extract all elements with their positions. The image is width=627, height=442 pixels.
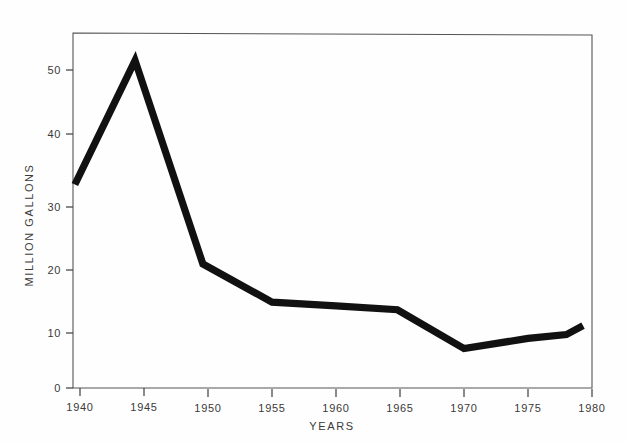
y-axis-title: MILLION GALLONS bbox=[23, 163, 35, 286]
chart-figure: 0 10 20 30 40 50 MILLION GALLONS 1940 19… bbox=[0, 0, 627, 442]
x-tick-label-1955: 1955 bbox=[258, 402, 285, 414]
x-tick-label-1950: 1950 bbox=[194, 402, 221, 414]
x-tick-label-1940: 1940 bbox=[66, 401, 93, 413]
y-tick-label-10: 10 bbox=[48, 327, 61, 339]
y-tick-label-20: 20 bbox=[48, 264, 61, 276]
y-tick-label-50: 50 bbox=[48, 64, 61, 76]
y-axis-ticks bbox=[66, 70, 73, 388]
x-tick-label-1980: 1980 bbox=[578, 402, 605, 414]
plot-frame bbox=[73, 33, 592, 388]
y-axis-tick-labels: 0 10 20 30 40 50 bbox=[48, 64, 61, 394]
y-tick-label-0: 0 bbox=[54, 382, 61, 394]
y-tick-label-30: 30 bbox=[48, 201, 61, 213]
line-chart: 0 10 20 30 40 50 MILLION GALLONS 1940 19… bbox=[0, 0, 627, 442]
x-tick-label-1965: 1965 bbox=[386, 402, 413, 414]
x-tick-label-1970: 1970 bbox=[450, 402, 477, 414]
x-tick-label-1975: 1975 bbox=[514, 402, 541, 414]
x-axis-title: YEARS bbox=[309, 420, 354, 432]
x-axis-tick-labels: 1940 1945 1950 1955 1960 1965 1970 1975 … bbox=[66, 401, 605, 414]
data-series-line bbox=[75, 60, 583, 348]
x-tick-label-1960: 1960 bbox=[322, 402, 349, 414]
x-axis-ticks bbox=[80, 388, 592, 397]
x-tick-label-1945: 1945 bbox=[130, 401, 157, 413]
y-tick-label-40: 40 bbox=[48, 128, 61, 140]
